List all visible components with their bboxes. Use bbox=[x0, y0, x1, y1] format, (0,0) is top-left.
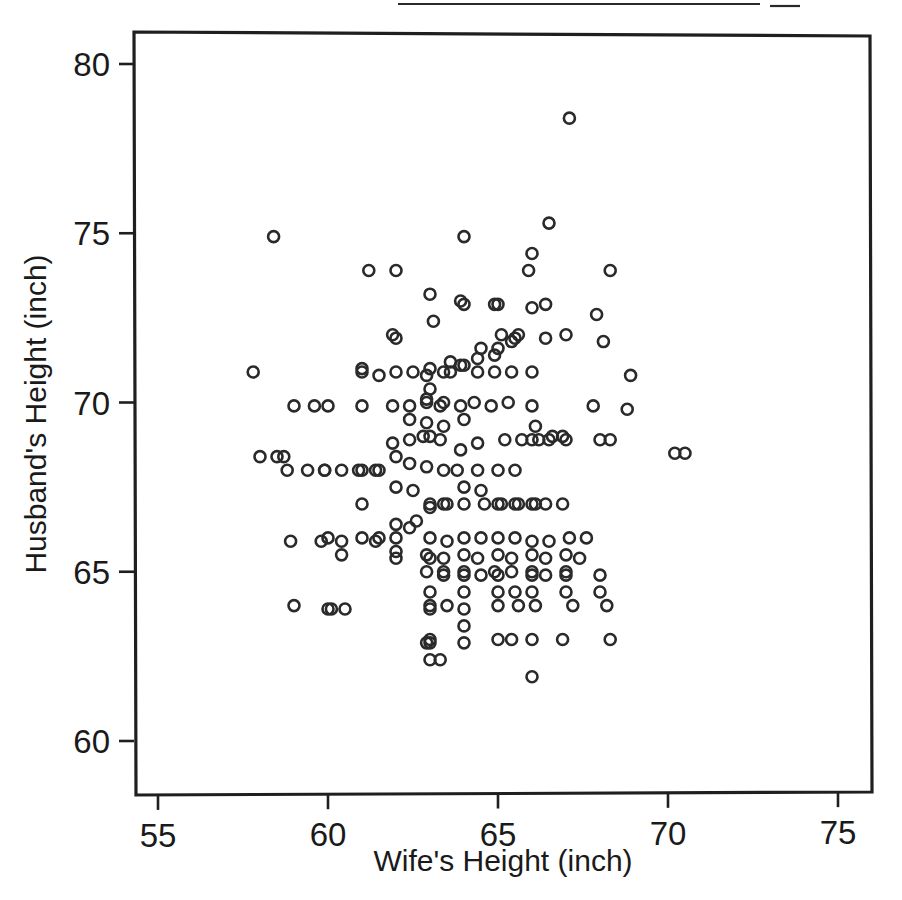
scatter-point bbox=[493, 587, 504, 598]
scatter-point bbox=[561, 549, 572, 560]
scatter-point bbox=[404, 458, 415, 469]
scatter-point bbox=[506, 553, 517, 564]
scatter-plot-figure: 6065707580 5560657075 Wife's Height (inc… bbox=[0, 0, 902, 900]
scatter-point bbox=[404, 414, 415, 425]
scatter-point bbox=[387, 438, 398, 449]
scatter-point bbox=[459, 587, 470, 598]
scatter-point bbox=[336, 536, 347, 547]
x-tick-label: 60 bbox=[310, 816, 347, 853]
scatter-point bbox=[391, 265, 402, 276]
scatter-point bbox=[319, 465, 330, 476]
scatter-point bbox=[391, 519, 402, 530]
scatter-point bbox=[564, 532, 575, 543]
scatter-point bbox=[476, 570, 487, 581]
scatter-point bbox=[248, 367, 259, 378]
plot-canvas: 6065707580 5560657075 Wife's Height (inc… bbox=[0, 0, 902, 900]
scatter-point bbox=[493, 600, 504, 611]
y-axis-tick-labels: 6065707580 bbox=[73, 46, 110, 760]
scan-artifact-top bbox=[398, 4, 800, 6]
scatter-point bbox=[591, 309, 602, 320]
scatter-point bbox=[540, 333, 551, 344]
scatter-point bbox=[540, 570, 551, 581]
y-tick-label: 70 bbox=[73, 385, 110, 422]
scatter-point bbox=[442, 536, 453, 547]
scatter-point bbox=[564, 113, 575, 124]
x-tick-label: 70 bbox=[650, 815, 687, 852]
scatter-point bbox=[438, 553, 449, 564]
scatter-point bbox=[435, 434, 446, 445]
scatter-point bbox=[472, 553, 483, 564]
y-axis-ticks bbox=[119, 64, 134, 741]
scatter-point bbox=[421, 566, 432, 577]
scatter-point bbox=[506, 566, 517, 577]
scatter-point bbox=[340, 603, 351, 614]
scatter-point bbox=[428, 316, 439, 327]
scatter-point bbox=[527, 248, 538, 259]
scatter-point bbox=[527, 302, 538, 313]
y-tick-label: 65 bbox=[73, 554, 110, 591]
scatter-point bbox=[557, 499, 568, 510]
scatter-point bbox=[452, 465, 463, 476]
scatter-point bbox=[404, 434, 415, 445]
scatter-point bbox=[513, 600, 524, 611]
scatter-point bbox=[601, 600, 612, 611]
scatter-point bbox=[503, 397, 514, 408]
scatter-point bbox=[523, 265, 534, 276]
scatter-point bbox=[336, 465, 347, 476]
x-tick-label: 75 bbox=[820, 814, 857, 851]
scatter-point bbox=[459, 231, 470, 242]
scatter-point bbox=[527, 549, 538, 560]
scatter-point bbox=[289, 400, 300, 411]
scatter-point bbox=[425, 587, 436, 598]
scatter-point bbox=[472, 438, 483, 449]
scatter-point bbox=[442, 600, 453, 611]
scatter-point bbox=[459, 499, 470, 510]
scatter-point bbox=[486, 400, 497, 411]
scatter-point bbox=[459, 414, 470, 425]
scatter-point bbox=[527, 400, 538, 411]
scatter-point bbox=[459, 549, 470, 560]
scatter-point bbox=[557, 634, 568, 645]
scatter-point bbox=[469, 397, 480, 408]
scatter-point bbox=[455, 400, 466, 411]
scatter-point bbox=[459, 482, 470, 493]
scatter-point bbox=[255, 451, 266, 462]
scatter-point bbox=[605, 634, 616, 645]
scatter-point bbox=[438, 421, 449, 432]
scatter-point bbox=[527, 367, 538, 378]
scatter-point bbox=[404, 400, 415, 411]
scatter-point bbox=[391, 532, 402, 543]
scatter-point bbox=[493, 532, 504, 543]
scatter-point bbox=[588, 400, 599, 411]
y-tick-label: 80 bbox=[73, 46, 110, 83]
scatter-point bbox=[472, 353, 483, 364]
scatter-point bbox=[438, 465, 449, 476]
scatter-point bbox=[530, 421, 541, 432]
scatter-point bbox=[527, 587, 538, 598]
scatter-point bbox=[581, 532, 592, 543]
scatter-point bbox=[540, 299, 551, 310]
scatter-point bbox=[479, 499, 490, 510]
scatter-point bbox=[404, 522, 415, 533]
scatter-point bbox=[605, 265, 616, 276]
scatter-point bbox=[489, 367, 500, 378]
scatter-point bbox=[540, 553, 551, 564]
scatter-point bbox=[459, 532, 470, 543]
scatter-point bbox=[493, 465, 504, 476]
scatter-point bbox=[421, 461, 432, 472]
scatter-point bbox=[387, 400, 398, 411]
scatter-point bbox=[289, 600, 300, 611]
scatter-point bbox=[493, 549, 504, 560]
scatter-point bbox=[323, 400, 334, 411]
scatter-point bbox=[567, 600, 578, 611]
scatter-markers bbox=[248, 113, 691, 683]
x-axis-title: Wife's Height (inch) bbox=[373, 844, 632, 877]
scatter-point bbox=[561, 587, 572, 598]
scatter-point bbox=[574, 553, 585, 564]
scatter-point bbox=[527, 634, 538, 645]
scatter-point bbox=[527, 536, 538, 547]
scatter-point bbox=[459, 603, 470, 614]
y-tick-label: 75 bbox=[73, 215, 110, 252]
scatter-point bbox=[561, 329, 572, 340]
scatter-point bbox=[455, 444, 466, 455]
